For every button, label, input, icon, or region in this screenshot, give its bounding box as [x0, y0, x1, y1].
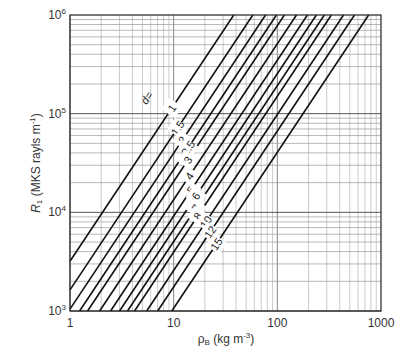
data-line-d-6 — [120, 15, 317, 311]
x-axis-label: ρB (kg m-3) — [198, 331, 255, 347]
data-line-d-7 — [127, 15, 324, 311]
data-line-d-4 — [100, 15, 297, 311]
log-log-chart: 11.522.5345678101215d= 11010010001031041… — [0, 0, 408, 359]
data-line-d-15 — [172, 15, 369, 311]
y-axis-label: R1 (MKS rayls m-1) — [28, 113, 44, 213]
x-tick-label: 1000 — [368, 316, 395, 330]
y-tick-label: 105 — [48, 106, 66, 121]
data-line-d-8 — [135, 15, 332, 311]
x-tick-label: 100 — [267, 316, 287, 330]
x-tick-label: 10 — [167, 316, 181, 330]
parameter-label: d= — [138, 89, 155, 107]
y-tick-label: 103 — [48, 303, 66, 318]
y-tick-label: 106 — [48, 7, 66, 22]
data-lines — [70, 15, 369, 311]
y-tick-label: 104 — [48, 204, 66, 219]
data-line-d-2.5 — [80, 15, 277, 311]
data-line-d-5 — [111, 15, 308, 311]
x-tick-label: 1 — [67, 316, 74, 330]
data-line-d-10 — [147, 15, 344, 311]
